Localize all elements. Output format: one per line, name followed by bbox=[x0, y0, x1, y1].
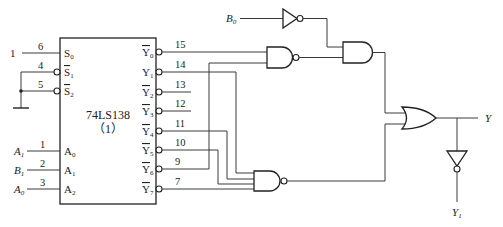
pin-number: 14 bbox=[175, 59, 186, 70]
schematic: 74LS138 （1） 1 6 S0 4 S1 5 S2 A1 1 A0 B1 … bbox=[0, 0, 503, 227]
pin-number: 4 bbox=[38, 60, 44, 71]
pin-number: 10 bbox=[175, 137, 186, 148]
pin-number: 7 bbox=[175, 176, 180, 187]
output-y0: Y0 15 bbox=[142, 39, 267, 60]
pin-number: 11 bbox=[175, 118, 185, 129]
inversion-bubble bbox=[156, 147, 162, 153]
inversion-bubble bbox=[54, 88, 60, 94]
inversion-bubble bbox=[156, 49, 162, 55]
chip-instance-label: （1） bbox=[93, 122, 123, 136]
output-y6: Y6 9 bbox=[142, 63, 267, 177]
inversion-bubble bbox=[156, 89, 162, 95]
pin-number: 6 bbox=[38, 41, 43, 52]
and-gate bbox=[343, 42, 407, 113]
inversion-bubble bbox=[156, 108, 162, 114]
ground-symbol bbox=[13, 72, 29, 108]
pin-number: 1 bbox=[40, 139, 45, 150]
pin-number: 12 bbox=[175, 98, 186, 109]
nand-gate-4-input bbox=[254, 124, 407, 191]
inversion-bubble bbox=[156, 166, 162, 172]
chip-part-number: 74LS138 bbox=[86, 108, 130, 122]
output-y5: Y5 10 bbox=[142, 137, 254, 184]
output-y1-label: Y1 bbox=[452, 206, 462, 220]
inversion-bubble bbox=[156, 69, 162, 75]
inversion-bubble bbox=[297, 16, 303, 22]
pin-number: 3 bbox=[40, 177, 45, 188]
inversion-bubble bbox=[293, 55, 299, 61]
signal-label: B1 bbox=[14, 164, 24, 178]
s0-level-label: 1 bbox=[10, 47, 16, 59]
b0-label: B0 bbox=[226, 12, 237, 26]
signal-label: A0 bbox=[13, 183, 25, 197]
pin-number: 15 bbox=[175, 39, 186, 50]
pin-number: 9 bbox=[175, 156, 180, 167]
pin-number: 2 bbox=[40, 158, 45, 169]
signal-label: A1 bbox=[13, 145, 24, 159]
inversion-bubble bbox=[54, 69, 60, 75]
not-gate-b0: B0 bbox=[226, 9, 343, 47]
circuit-diagram: 74LS138 （1） 1 6 S0 4 S1 5 S2 A1 1 A0 B1 … bbox=[0, 0, 503, 227]
inversion-bubble bbox=[454, 166, 460, 172]
nand-gate-2-input bbox=[267, 47, 343, 68]
output-y1: Y1 14 bbox=[142, 59, 254, 173]
not-gate-y: Y1 bbox=[447, 118, 467, 220]
output-y-label: Y bbox=[485, 112, 493, 124]
or-gate: Y bbox=[402, 107, 493, 129]
pin-number: 13 bbox=[175, 79, 186, 90]
junction-dot bbox=[19, 89, 23, 93]
inversion-bubble bbox=[281, 178, 287, 184]
inversion-bubble bbox=[156, 128, 162, 134]
pin-number: 5 bbox=[38, 79, 43, 90]
inversion-bubble bbox=[156, 186, 162, 192]
